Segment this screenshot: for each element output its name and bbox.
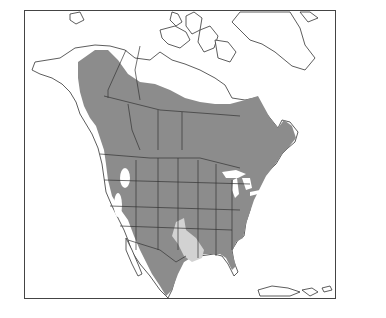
range-map (0, 0, 386, 318)
range-gap (120, 168, 130, 188)
range-gap (114, 193, 122, 217)
caribbean-islands (258, 286, 332, 296)
